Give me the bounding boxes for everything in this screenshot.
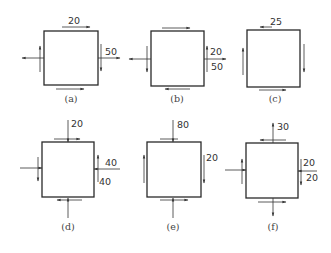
stress-value-label: 25 xyxy=(270,16,282,27)
element-square xyxy=(247,30,300,87)
stress-element-a: 2050(a) xyxy=(22,15,120,104)
stress-value-label: 40 xyxy=(99,176,111,187)
panel-caption: (b) xyxy=(170,93,184,104)
stress-value-label: 20 xyxy=(71,118,83,129)
element-square xyxy=(42,142,94,197)
stress-value-label: 20 xyxy=(206,152,218,163)
element-square xyxy=(44,31,98,85)
stress-value-label: 20 xyxy=(210,46,222,57)
stress-value-label: 20 xyxy=(303,157,315,168)
stress-value-label: 20 xyxy=(68,15,80,26)
stress-value-label: 50 xyxy=(105,46,117,57)
panel-caption: (a) xyxy=(64,93,77,104)
stress-value-label: 40 xyxy=(105,157,117,168)
stress-value-label: 30 xyxy=(277,121,289,132)
stress-element-figure: 2050(a)2050(b)25(c)204040(d)8020(e)30202… xyxy=(0,0,331,253)
stress-value-label: 50 xyxy=(211,61,223,72)
panel-caption: (f) xyxy=(268,221,279,232)
element-square xyxy=(246,143,298,198)
panel-caption: (c) xyxy=(269,93,282,104)
stress-element-c: 25(c) xyxy=(243,16,304,104)
stress-element-e: 8020(e) xyxy=(144,119,218,232)
panel-caption: (d) xyxy=(61,221,75,232)
element-square xyxy=(151,31,204,86)
diagram-canvas: 2050(a)2050(b)25(c)204040(d)8020(e)30202… xyxy=(0,0,331,253)
stress-element-d: 204040(d) xyxy=(20,118,120,232)
stress-value-label: 80 xyxy=(177,119,189,130)
stress-value-label: 20 xyxy=(306,172,318,183)
stress-element-b: 2050(b) xyxy=(129,28,226,104)
panels-group: 2050(a)2050(b)25(c)204040(d)8020(e)30202… xyxy=(20,15,318,232)
element-square xyxy=(147,142,201,197)
stress-element-f: 302020(f) xyxy=(225,121,318,232)
panel-caption: (e) xyxy=(166,221,179,232)
